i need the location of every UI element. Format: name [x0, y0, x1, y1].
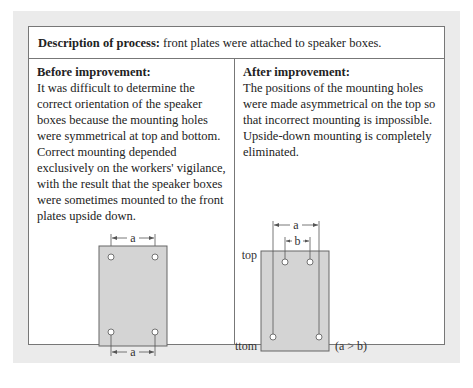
before-top-dim-label: a: [130, 231, 136, 245]
mounting-hole: [307, 259, 313, 265]
before-column: Before improvement: It was difficult to …: [29, 59, 235, 345]
after-title: After improvement:: [243, 64, 437, 80]
before-title: Before improvement:: [37, 64, 226, 80]
after-diagram: a b top bottom (a > b): [235, 209, 445, 369]
mounting-hole: [152, 329, 158, 335]
mounting-hole: [108, 254, 114, 260]
process-label: Description of process:: [38, 36, 160, 50]
before-bottom-dim-label: a: [130, 345, 136, 359]
before-diagram: a a: [29, 224, 219, 364]
mounting-hole: [316, 334, 322, 340]
mounting-hole: [108, 329, 114, 335]
before-text: It was difficult to determine the correc…: [37, 80, 226, 224]
improvement-table: Description of process: front plates wer…: [28, 26, 445, 345]
top-label: top: [242, 248, 257, 262]
process-description: Description of process: front plates wer…: [29, 27, 444, 59]
mounting-hole: [282, 259, 288, 265]
after-column: After improvement: The positions of the …: [235, 59, 445, 345]
mounting-hole: [270, 334, 276, 340]
after-inner-dim-label: b: [295, 234, 301, 248]
mounting-hole: [152, 254, 158, 260]
bottom-label: bottom: [235, 339, 258, 353]
process-text: front plates were attached to speaker bo…: [160, 36, 381, 50]
after-text: The positions of the mounting holes were…: [243, 80, 437, 160]
after-outer-dim-label: a: [293, 218, 299, 232]
condition-label: (a > b): [335, 339, 367, 353]
